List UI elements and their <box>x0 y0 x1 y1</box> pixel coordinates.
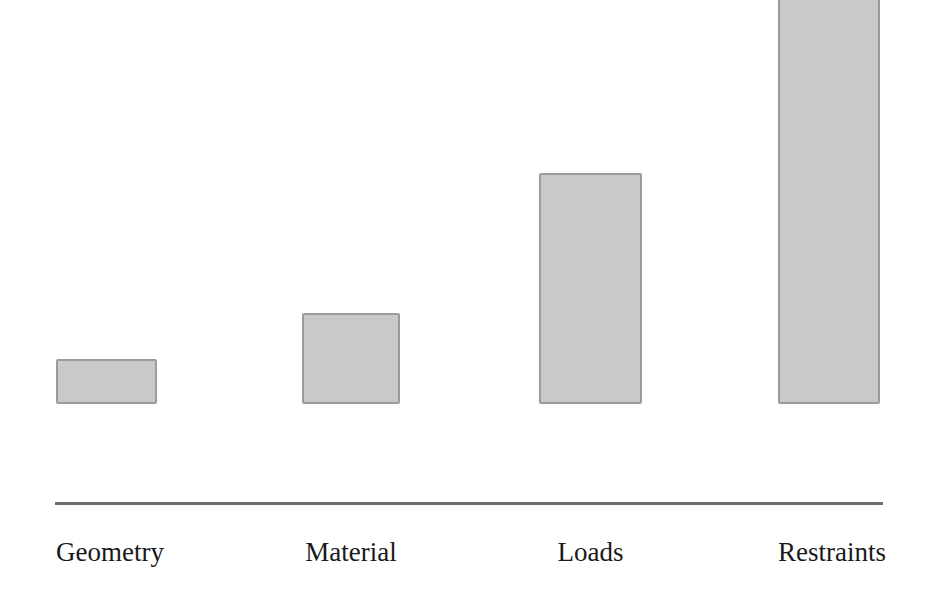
bar-restraints <box>778 0 880 404</box>
bar-geometry <box>56 359 157 404</box>
x-axis-label-material: Material <box>302 536 400 568</box>
x-axis-label-restraints: Restraints <box>778 536 880 568</box>
x-axis-label-loads: Loads <box>539 536 642 568</box>
bar-loads <box>539 173 642 404</box>
plot-area <box>0 0 931 509</box>
x-axis-label-geometry: Geometry <box>56 536 157 568</box>
bar-material <box>302 313 400 404</box>
x-axis-baseline <box>55 502 883 505</box>
bar-chart-figure: Geometry Material Loads Restraints <box>0 0 931 609</box>
